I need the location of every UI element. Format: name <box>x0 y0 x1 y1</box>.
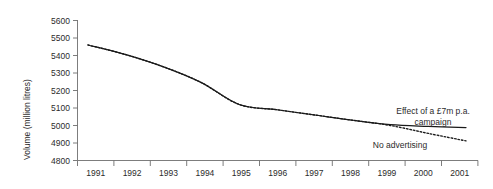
y-tick-label: 5200 <box>51 86 70 96</box>
x-tick-label: 1997 <box>305 168 324 178</box>
campaign-annotation-line2: campaign <box>415 117 452 127</box>
x-tick-label: 1999 <box>377 168 396 178</box>
x-tick-label: 1998 <box>341 168 360 178</box>
y-tick-label: 5000 <box>51 121 70 131</box>
x-tick-label: 1994 <box>195 168 214 178</box>
y-tick-label: 5600 <box>51 16 70 26</box>
y-tick-label: 5500 <box>51 33 70 43</box>
y-tick-label: 5400 <box>51 51 70 61</box>
no-advertising-annotation: No advertising <box>373 140 428 150</box>
y-axis-title: Volume (million litres) <box>22 79 32 160</box>
x-tick-label: 1996 <box>268 168 287 178</box>
x-tick-label: 1993 <box>159 168 178 178</box>
x-tick-label: 1995 <box>232 168 251 178</box>
x-tick-label: 2000 <box>414 168 433 178</box>
campaign-annotation-line1: Effect of a £7m p.a. <box>396 106 470 116</box>
y-tick-label: 4900 <box>51 138 70 148</box>
y-tick-label: 5300 <box>51 68 70 78</box>
series-line-no-advertising <box>88 45 466 141</box>
x-tick-label: 2001 <box>450 168 469 178</box>
y-tick-label: 5100 <box>51 103 70 113</box>
x-tick-label: 1991 <box>86 168 105 178</box>
x-tick-label: 1992 <box>123 168 142 178</box>
line-chart: Volume (million litres) 5600 5500 5400 5… <box>0 0 493 189</box>
y-tick-label: 4800 <box>51 156 70 166</box>
chart-container: Volume (million litres) 5600 5500 5400 5… <box>0 0 493 189</box>
